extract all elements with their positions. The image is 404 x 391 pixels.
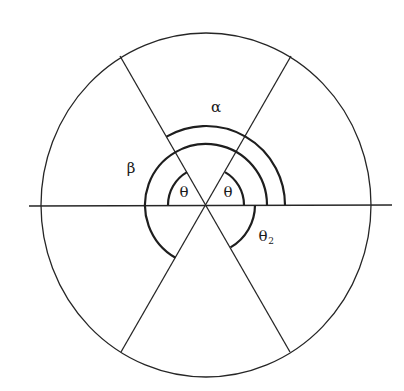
theta-right-label: θ xyxy=(223,183,232,201)
theta-left-label: θ xyxy=(179,183,188,201)
diagonal-line-60 xyxy=(121,56,291,352)
theta2-label: θ xyxy=(258,227,267,245)
alpha-label: α xyxy=(211,98,221,116)
theta2-arc xyxy=(231,205,256,247)
beta-label: β xyxy=(127,159,136,177)
beta-arc xyxy=(145,144,267,258)
theta2-subscript: 2 xyxy=(268,236,274,246)
horizontal-diameter xyxy=(29,205,392,206)
geometry-diagram: α β θ θ θ 2 xyxy=(0,0,404,391)
